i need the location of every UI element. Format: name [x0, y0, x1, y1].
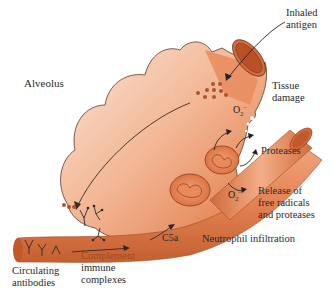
release-label-line3: and proteases [258, 209, 315, 221]
circulating-antibodies-label-line1: Circulating [12, 265, 59, 277]
superoxide-label-bottom: O2− [228, 189, 242, 202]
immune-complexes-label-line1: immune [81, 262, 115, 274]
neutrophil-icon [170, 174, 210, 206]
tissue-damage-label-line2: damage [272, 92, 305, 104]
complement-label: Complement [81, 250, 135, 262]
tissue-damage-label-line1: Tissue [272, 80, 299, 92]
circulating-antibodies-label-line2: antibodies [12, 277, 55, 289]
immune-complexes-label-line2: complexes [81, 274, 126, 286]
c5a-label: C5a [162, 232, 178, 244]
inhaled-antigen-label-line1: Inhaled [286, 7, 318, 19]
release-label-line2: free radicals [258, 197, 310, 209]
inhaled-antigen-label-line2: antigen [286, 19, 317, 31]
alveolus-label: Alveolus [24, 77, 64, 89]
neutrophil-infiltration-label: Neutrophil infiltration [202, 233, 295, 245]
release-label-line1: Release of [258, 185, 302, 197]
neutrophil-icon [205, 146, 239, 174]
superoxide-label-top: O2− [233, 104, 247, 117]
proteases-label: Proteases [261, 145, 301, 157]
